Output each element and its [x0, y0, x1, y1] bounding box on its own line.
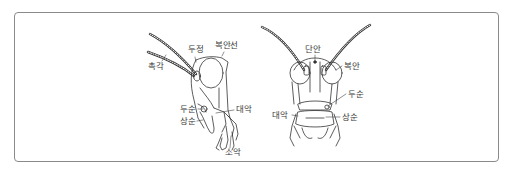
label-maxilla-side: 소악: [225, 148, 240, 157]
label-compound-eye: 복안: [344, 62, 359, 71]
label-ocellus: 단안: [305, 45, 320, 54]
label-compound-eye-suture: 복안선: [215, 41, 238, 50]
label-mandible-front: 대악: [272, 111, 287, 120]
label-clypeus-front: 두순: [348, 90, 363, 99]
label-mandible-side: 대악: [236, 105, 251, 114]
label-antenna: 촉각: [148, 62, 163, 71]
label-clypeus-side: 두순: [180, 105, 195, 114]
label-vertex: 두정: [188, 45, 203, 54]
insect-head-illustration: [0, 0, 515, 173]
label-labrum-front: 상순: [342, 113, 357, 122]
label-labrum-side: 상순: [180, 117, 195, 126]
